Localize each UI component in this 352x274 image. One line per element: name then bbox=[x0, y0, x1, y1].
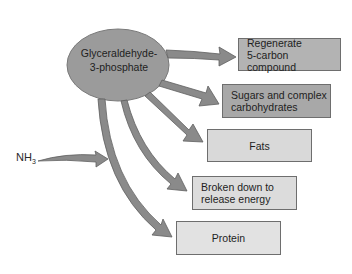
target-line1: Protein bbox=[212, 232, 245, 244]
target-line2: release energy bbox=[201, 193, 274, 205]
target-line1: Fats bbox=[249, 140, 269, 152]
source-label-line2: 3-phosphate bbox=[67, 60, 171, 74]
arrow-to-energy bbox=[121, 100, 187, 191]
nh3-label: NH3 bbox=[16, 151, 36, 165]
nh3-subscript: 3 bbox=[32, 158, 36, 165]
arrow-to-fats bbox=[145, 92, 203, 142]
arrow-to-regenerate bbox=[166, 47, 236, 66]
target-fats: Fats bbox=[207, 129, 312, 162]
target-line1: Broken down to bbox=[201, 181, 274, 193]
source-label-line1: Glyceraldehyde- bbox=[67, 46, 171, 60]
arrow-nh3-input bbox=[38, 151, 108, 167]
target-sugars: Sugars and complex carbohydrates bbox=[222, 84, 331, 118]
target-energy: Broken down to release energy bbox=[192, 176, 297, 210]
target-regenerate: Regenerate 5-carbon compound bbox=[238, 38, 341, 71]
target-line2: 5-carbon compound bbox=[247, 49, 340, 73]
nh3-text: NH bbox=[16, 151, 32, 163]
arrow-to-sugars bbox=[159, 80, 219, 106]
source-node-label: Glyceraldehyde- 3-phosphate bbox=[67, 46, 171, 74]
target-line1: Sugars and complex bbox=[231, 89, 327, 101]
target-line2: carbohydrates bbox=[231, 101, 327, 113]
target-line1: Regenerate bbox=[247, 37, 340, 49]
target-protein: Protein bbox=[176, 221, 281, 255]
